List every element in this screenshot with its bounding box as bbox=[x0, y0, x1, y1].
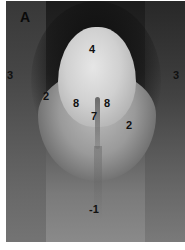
structure-label-4: 4 bbox=[89, 44, 95, 55]
panel-label: A bbox=[20, 10, 30, 24]
neural-groove bbox=[95, 97, 100, 149]
structure-label-7: 7 bbox=[91, 111, 97, 122]
structure-label-3-left: 3 bbox=[7, 70, 13, 81]
structure-label-8-right: 8 bbox=[104, 98, 110, 109]
structure-label-1: -1 bbox=[89, 204, 99, 215]
structure-label-2-left: 2 bbox=[43, 91, 49, 102]
structure-label-8-left: 8 bbox=[73, 98, 79, 109]
structure-label-2-right: 2 bbox=[126, 120, 132, 131]
structure-label-3-right: 3 bbox=[173, 70, 179, 81]
